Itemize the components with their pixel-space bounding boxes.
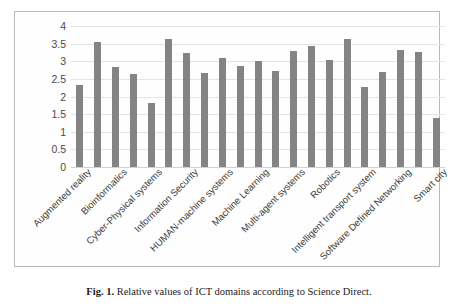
y-axis-tick-label: 3.5 <box>51 38 66 49</box>
x-axis: Augmented realityBioinformaticsCyber-Phy… <box>71 167 445 267</box>
y-axis: 00.511.522.533.54 <box>33 26 66 167</box>
figure-caption: Fig. 1. Relative values of ICT domains a… <box>0 286 458 297</box>
bar[interactable] <box>326 60 333 168</box>
figure-number: Fig. 1. <box>86 286 114 297</box>
bar-series <box>71 26 445 167</box>
bar-slot <box>214 26 232 167</box>
bar[interactable] <box>397 50 404 167</box>
y-axis-tick-label: 2.5 <box>51 74 66 85</box>
bar-slot <box>160 26 178 167</box>
bar[interactable] <box>219 58 226 167</box>
y-axis-tick-label: 0.5 <box>51 144 66 155</box>
bar-slot <box>124 26 142 167</box>
bar[interactable] <box>148 103 155 167</box>
bar-slot <box>409 26 427 167</box>
bar[interactable] <box>433 118 440 167</box>
bar[interactable] <box>201 73 208 167</box>
bar-slot <box>374 26 392 167</box>
bar-slot <box>392 26 410 167</box>
figure-caption-text: Relative values of ICT domains according… <box>117 286 372 297</box>
bar-slot <box>196 26 214 167</box>
y-axis-tick-label: 4 <box>60 21 66 32</box>
figure-container: 00.511.522.533.54 Augmented realityBioin… <box>0 0 458 306</box>
bar[interactable] <box>237 66 244 167</box>
bar[interactable] <box>379 72 386 167</box>
bar-slot <box>249 26 267 167</box>
bar-slot <box>356 26 374 167</box>
bar-slot <box>178 26 196 167</box>
x-axis-tick-label: Robotics <box>309 167 342 200</box>
bar[interactable] <box>361 87 368 167</box>
plot-area <box>71 26 445 167</box>
x-axis-tick-label: Smart city <box>412 167 449 204</box>
bar-slot <box>142 26 160 167</box>
bar[interactable] <box>344 39 351 167</box>
x-axis-tick-label: Information Security <box>132 167 199 234</box>
chart-frame: 00.511.522.533.54 Augmented realityBioin… <box>14 11 440 267</box>
bar-slot <box>303 26 321 167</box>
bar[interactable] <box>290 51 297 167</box>
y-axis-tick-label: 0 <box>60 162 66 173</box>
bar-slot <box>427 26 445 167</box>
bar-slot <box>320 26 338 167</box>
bar[interactable] <box>415 52 422 167</box>
x-axis-tick-label: Multi-agent systems <box>239 167 306 234</box>
bar[interactable] <box>272 71 279 167</box>
bar[interactable] <box>255 61 262 167</box>
bar[interactable] <box>112 67 119 167</box>
bar-slot <box>285 26 303 167</box>
bar[interactable] <box>94 42 101 167</box>
bar[interactable] <box>183 53 190 167</box>
bar-slot <box>267 26 285 167</box>
bar-slot <box>89 26 107 167</box>
bar-slot <box>107 26 125 167</box>
bar-slot <box>231 26 249 167</box>
y-axis-tick-label: 1.5 <box>51 109 66 120</box>
bar[interactable] <box>308 46 315 167</box>
y-axis-tick-label: 2 <box>60 91 66 102</box>
bar[interactable] <box>76 85 83 167</box>
y-axis-tick-label: 1 <box>60 127 66 138</box>
y-axis-tick-label: 3 <box>60 56 66 67</box>
bar-slot <box>71 26 89 167</box>
x-axis-tick-label: Augmented reality <box>31 167 92 228</box>
bar[interactable] <box>130 74 137 167</box>
bar[interactable] <box>165 39 172 167</box>
bar-slot <box>338 26 356 167</box>
